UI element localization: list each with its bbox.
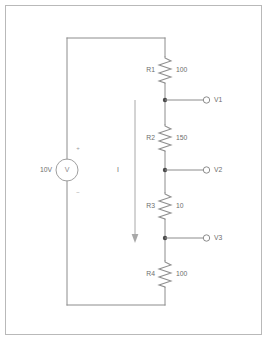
voltage-source[interactable]: V 10V + − — [40, 145, 80, 195]
resistor-r3[interactable]: R3 10 — [146, 192, 183, 220]
circuit-diagram-canvas: V 10V + − I R1 100 R2 150 R3 10 — [0, 0, 267, 340]
resistor-r2-value: 150 — [176, 134, 188, 141]
terminal-ring-v3[interactable] — [203, 235, 209, 241]
resistor-r1-value: 100 — [176, 66, 188, 73]
resistor-r4-value: 100 — [176, 270, 188, 277]
terminal-ring-v1[interactable] — [203, 97, 209, 103]
current-label: I — [117, 166, 119, 173]
node-label-v1: V1 — [214, 96, 223, 103]
resistor-r4-name: R4 — [146, 270, 155, 277]
resistor-r1[interactable]: R1 100 — [146, 56, 187, 84]
circuit-schematic: V 10V + − I R1 100 R2 150 R3 10 — [0, 0, 267, 340]
resistor-r3-value: 10 — [176, 202, 184, 209]
node-tap-v3[interactable]: V3 — [163, 234, 223, 241]
resistor-r2-name: R2 — [146, 134, 155, 141]
resistor-r1-name: R1 — [146, 66, 155, 73]
node-label-v3: V3 — [214, 234, 223, 241]
node-label-v2: V2 — [214, 166, 223, 173]
terminal-ring-v2[interactable] — [203, 167, 209, 173]
resistor-r4[interactable]: R4 100 — [146, 260, 187, 288]
node-tap-v2[interactable]: V2 — [163, 166, 223, 173]
resistor-r1-zigzag — [159, 56, 171, 84]
node-tap-v1[interactable]: V1 — [163, 96, 223, 103]
voltage-source-symbol: V — [65, 166, 70, 173]
resistor-r4-zigzag — [159, 260, 171, 288]
voltage-source-minus-sign: − — [76, 189, 80, 195]
resistor-r2[interactable]: R2 150 — [146, 124, 187, 152]
resistor-r3-zigzag — [159, 192, 171, 220]
voltage-source-value-label: 10V — [40, 166, 53, 173]
resistor-r3-name: R3 — [146, 202, 155, 209]
current-arrow: I — [117, 100, 138, 243]
current-arrow-head — [132, 234, 139, 243]
voltage-source-plus-sign: + — [76, 145, 80, 151]
resistor-r2-zigzag — [159, 124, 171, 152]
